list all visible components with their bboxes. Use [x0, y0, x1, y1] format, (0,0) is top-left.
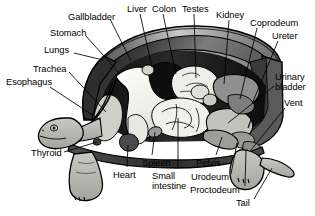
label-coprodeum: Coprodeum [250, 18, 298, 28]
label-gallbladder-line-1: Gallbladder [68, 12, 115, 22]
label-spleen-line-1: Spleen [142, 158, 171, 168]
hind-leg [230, 150, 264, 190]
label-liver-line-1: Liver [127, 4, 147, 14]
label-lungs-line-1: Lungs [44, 45, 69, 55]
label-heart: Heart [113, 170, 135, 180]
label-small_intestine-line-1: Small [152, 171, 186, 181]
label-thyroid: Thyroid [31, 148, 62, 158]
label-small_intestine: Smallintestine [152, 171, 186, 191]
label-vent-line-1: Vent [284, 98, 302, 108]
label-proctodeum: Proctodeum [190, 185, 240, 195]
label-urinary_bladder-line-2: bladder [275, 82, 306, 92]
label-heart-line-1: Heart [113, 170, 135, 180]
label-tail-line-1: Tail [236, 198, 250, 208]
label-urodeum-line-1: Urodeum [191, 172, 229, 182]
label-urinary_bladder-line-1: Urinary [275, 72, 306, 82]
testes-organ-second [203, 94, 217, 106]
label-testes: Testes [182, 4, 209, 14]
leader-lungs [74, 53, 103, 60]
label-stomach-line-1: Stomach [50, 28, 86, 38]
label-colon: Colon [152, 4, 176, 14]
label-ureter: Ureter [272, 31, 298, 41]
label-proctodeum-line-1: Proctodeum [190, 185, 240, 195]
label-urinary_bladder: Urinarybladder [275, 72, 306, 92]
label-ureter-line-1: Ureter [272, 31, 298, 41]
pupil [53, 127, 56, 130]
label-lungs: Lungs [44, 45, 69, 55]
label-thyroid-line-1: Thyroid [31, 148, 62, 158]
label-pelvis-line-1: Pelvis [196, 158, 221, 168]
label-liver: Liver [127, 4, 147, 14]
label-gallbladder: Gallbladder [68, 12, 115, 22]
label-spleen: Spleen [142, 158, 171, 168]
label-esophagus: Esophagus [6, 77, 52, 87]
label-esophagus-line-1: Esophagus [6, 77, 52, 87]
label-stomach: Stomach [50, 28, 86, 38]
anatomy-figure: GallbladderLiverColonTestesKidneyCoprode… [0, 0, 315, 216]
label-vent: Vent [284, 98, 302, 108]
label-trachea: Trachea [33, 64, 66, 74]
label-kidney-line-1: Kidney [216, 10, 244, 20]
label-urodeum: Urodeum [191, 172, 229, 182]
label-testes-line-1: Testes [182, 4, 209, 14]
label-coprodeum-line-1: Coprodeum [250, 18, 298, 28]
label-colon-line-1: Colon [152, 4, 176, 14]
label-pelvis: Pelvis [196, 158, 221, 168]
tail [260, 158, 294, 177]
label-trachea-line-1: Trachea [33, 64, 66, 74]
label-small_intestine-line-2: intestine [152, 181, 186, 191]
heart-organ [120, 134, 139, 151]
label-kidney: Kidney [216, 10, 244, 20]
label-tail: Tail [236, 198, 250, 208]
head [38, 118, 83, 149]
head-neck-group [38, 118, 102, 149]
